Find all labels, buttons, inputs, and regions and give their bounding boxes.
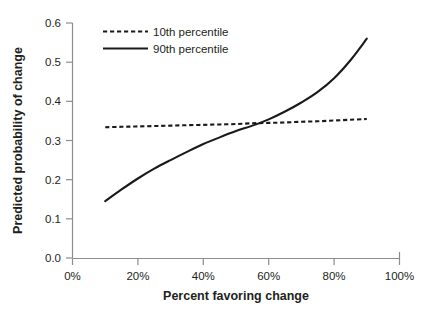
legend-label-10th-percentile: 10th percentile <box>153 26 228 38</box>
x-tick-label-1: 20% <box>126 270 149 282</box>
y-tick-label-1: 0.1 <box>45 213 61 225</box>
legend-label-90th-percentile: 90th percentile <box>153 43 228 55</box>
y-tick-label-3: 0.3 <box>45 135 61 147</box>
y-tick-label-4: 0.4 <box>45 95 62 107</box>
x-tick-label-0: 0% <box>64 270 81 282</box>
y-tick-label-5: 0.5 <box>45 56 61 68</box>
chart-container: 0.0 0.1 0.2 0.3 0.4 0.5 0.6 0% 20% 40% 6… <box>0 0 432 319</box>
x-tick-label-4: 80% <box>323 270 346 282</box>
x-tick-label-2: 40% <box>192 270 215 282</box>
x-axis-title: Percent favoring change <box>163 289 309 303</box>
y-tick-label-6: 0.6 <box>45 17 61 29</box>
y-axis-title: Predicted probability of change <box>11 47 25 234</box>
line-chart: 0.0 0.1 0.2 0.3 0.4 0.5 0.6 0% 20% 40% 6… <box>0 0 432 319</box>
x-tick-label-5: 100% <box>385 270 414 282</box>
x-tick-label-3: 60% <box>257 270 280 282</box>
y-tick-label-0: 0.0 <box>45 252 61 264</box>
y-tick-label-2: 0.2 <box>45 174 61 186</box>
